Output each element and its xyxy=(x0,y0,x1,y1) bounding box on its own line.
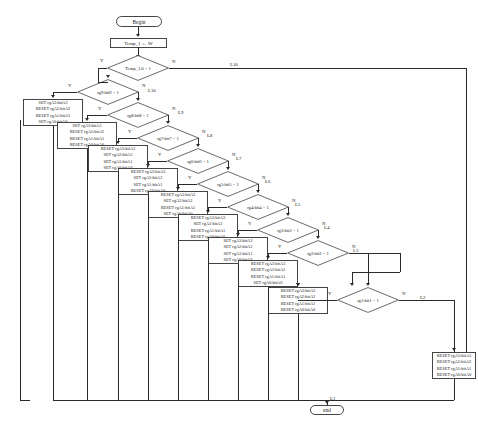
arrow xyxy=(196,144,200,147)
arrow xyxy=(206,210,210,213)
flow-label-L10: L10 xyxy=(230,62,238,67)
action-box-d2: RESET rgA3:bitA3RESET rgA2:bitA2RESET rg… xyxy=(238,260,298,287)
yes-branch-label: Y xyxy=(158,152,161,157)
decision-condition: rg7:bit7 = 1 xyxy=(157,136,179,141)
connector xyxy=(98,68,99,82)
flow-label-L7: L7 xyxy=(236,156,241,161)
yes-branch-label: Y xyxy=(98,106,101,111)
arrow xyxy=(136,34,140,37)
connector xyxy=(87,115,107,116)
connector xyxy=(87,149,88,400)
action-line: SET rgA0:bitA0 xyxy=(254,280,283,286)
no-branch-label: N xyxy=(232,152,235,157)
decision-condition: rg9:bit9 = 1 xyxy=(97,90,119,95)
action-line: RESET rgA0:bitA0 xyxy=(437,372,472,378)
arrow xyxy=(226,167,230,170)
connector xyxy=(327,400,454,401)
connector xyxy=(349,253,400,254)
end-node: end xyxy=(310,405,344,415)
connector xyxy=(20,400,30,401)
flow-label-L8: L8 xyxy=(207,133,212,138)
arrow xyxy=(350,283,354,286)
connector xyxy=(20,120,21,400)
connector xyxy=(268,287,269,400)
connector xyxy=(138,47,139,55)
connector xyxy=(298,314,299,400)
arrow xyxy=(85,118,89,121)
yes-branch-label: Y xyxy=(68,83,71,88)
decision-condition: Temp_1.0 = 1 xyxy=(125,66,151,71)
connector xyxy=(352,272,400,273)
decision-condition: rg5:bit5 = 1 xyxy=(217,182,239,187)
connector xyxy=(53,126,54,400)
connector xyxy=(118,138,137,139)
decision-condition: rg8:bit8 = 1 xyxy=(127,113,149,118)
decision-condition: rg4:bit4 = 1 xyxy=(247,205,269,210)
no-branch-label: N xyxy=(402,291,405,296)
arrow xyxy=(296,283,300,286)
flow-label-L9: L9 xyxy=(178,110,183,115)
yes-branch-label: Y xyxy=(248,221,251,226)
arrow xyxy=(51,95,55,98)
flow-label-L6: L6 xyxy=(265,179,270,184)
connector xyxy=(178,218,179,400)
connector xyxy=(238,230,257,231)
arrow xyxy=(146,164,150,167)
connector xyxy=(53,92,77,93)
no-branch-label: N xyxy=(202,129,205,134)
arrow xyxy=(236,233,240,236)
connector xyxy=(118,172,119,400)
start-label: Begin xyxy=(133,19,146,25)
arrow xyxy=(316,236,320,239)
yes-branch-label: Y xyxy=(128,129,131,134)
arrow xyxy=(256,190,260,193)
connector xyxy=(298,300,337,301)
arrow xyxy=(106,75,110,78)
connector xyxy=(169,68,466,69)
arrow xyxy=(116,141,120,144)
no-branch-label: N xyxy=(172,106,175,111)
arrow xyxy=(366,283,370,286)
connector xyxy=(352,272,353,283)
connector xyxy=(98,82,108,83)
connector xyxy=(399,300,454,301)
yes-branch-label: Y xyxy=(278,244,281,249)
arrow xyxy=(166,121,170,124)
flowchart-canvas: Begin Temp_1 ← W Temp_1.0 = 1NL10Yrg9:bi… xyxy=(0,0,478,426)
no-branch-label: N xyxy=(142,83,145,88)
decision-condition: rg2:bit2 = 1 xyxy=(307,251,329,256)
decision-condition: rg3:bit3 = 1 xyxy=(277,228,299,233)
yes-branch-label: Y xyxy=(100,58,103,63)
arrow xyxy=(286,213,290,216)
start-node: Begin xyxy=(116,16,162,27)
decision-d10: Temp_1.0 = 1 xyxy=(107,55,169,81)
connector xyxy=(148,195,149,400)
no-branch-label: N xyxy=(172,59,175,64)
decision-condition: rg1:bit1 = 1 xyxy=(357,298,379,303)
connector xyxy=(454,300,455,352)
connector xyxy=(148,161,167,162)
connector xyxy=(368,253,369,283)
final-action-box: RESET rgA3:bitA3RESET rgA2:bitA2RESET rg… xyxy=(432,352,476,379)
connector xyxy=(98,68,107,69)
connector xyxy=(400,253,401,272)
yes-branch-label: Y xyxy=(328,291,331,296)
connector xyxy=(454,379,455,400)
flow-label-L10: L10 xyxy=(148,88,156,93)
connector xyxy=(208,207,227,208)
connector xyxy=(238,264,239,400)
action-line: RESET rgA0:bitA0 xyxy=(281,307,316,313)
arrow xyxy=(452,348,456,351)
arrow xyxy=(325,401,329,404)
flow-label-L5: L5 xyxy=(295,202,300,207)
decision-condition: rg6:bit6 = 1 xyxy=(187,159,209,164)
yes-branch-label: Y xyxy=(188,175,191,180)
connector xyxy=(466,68,467,352)
decision-d1: rg1:bit1 = 1 xyxy=(337,287,399,313)
connector xyxy=(268,253,287,254)
arrow xyxy=(136,98,140,101)
connector xyxy=(53,400,327,401)
arrow xyxy=(266,256,270,259)
assign-label: Temp_1 ← W xyxy=(124,41,152,46)
arrow xyxy=(176,187,180,190)
